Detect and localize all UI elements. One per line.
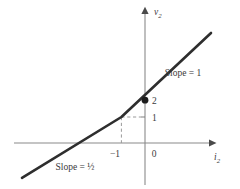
tick-label-negative-one: −1 — [110, 149, 120, 159]
piecewise-linear-characteristic-chart: v2 i2 −1 0 1 2 Slope = 1 Slope = ½ — [0, 0, 240, 189]
slope-one-annotation: Slope = 1 — [165, 68, 202, 78]
x-axis-arrowhead — [209, 139, 217, 146]
v-axis-intercept-dot — [142, 97, 149, 104]
y-axis-arrowhead — [141, 7, 148, 14]
slope-half-annotation: Slope = ½ — [56, 162, 95, 172]
x-axis-label: i2 — [214, 152, 221, 164]
y-axis-label: v2 — [154, 7, 162, 19]
y-axis-label-subscript: 2 — [158, 12, 162, 19]
tick-label-one: 1 — [152, 113, 157, 123]
tick-label-two: 2 — [152, 96, 157, 106]
x-axis-label-subscript: 2 — [217, 157, 221, 164]
tick-label-origin: 0 — [152, 149, 157, 159]
